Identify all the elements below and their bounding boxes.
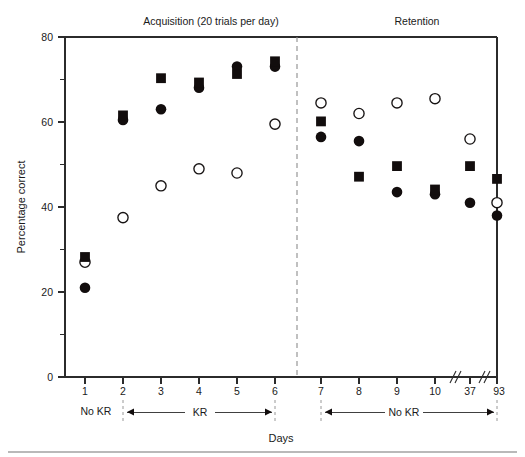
series-filled-square [80, 56, 502, 262]
data-point [465, 161, 475, 171]
phase-label-retention: Retention [395, 15, 440, 27]
data-point [465, 134, 475, 144]
data-point [80, 283, 91, 294]
data-point [118, 111, 128, 121]
data-point [194, 164, 204, 174]
x-tick-label-8: 8 [356, 385, 362, 397]
data-point [156, 104, 167, 115]
data-point [392, 98, 402, 108]
x-axis-title: Days [268, 432, 294, 444]
x-tick-label-1: 1 [82, 385, 88, 397]
data-point [316, 117, 326, 127]
data-markers [80, 56, 503, 293]
data-point [232, 168, 242, 178]
x-tick-label-10: 10 [429, 385, 441, 397]
x-tick-label-93: 93 [493, 385, 505, 397]
condition-annotations: No KR KR No KR [81, 400, 497, 423]
y-tick-label-0: 0 [47, 371, 53, 383]
data-point [492, 174, 502, 184]
series-open-circle [80, 94, 502, 268]
data-point [316, 132, 327, 143]
data-point [430, 185, 440, 195]
scatter-chart-figure: Acquisition (20 trials per day) Retentio… [0, 0, 525, 457]
x-tick-label-9: 9 [394, 385, 400, 397]
data-point [156, 181, 166, 191]
data-point [270, 119, 280, 129]
data-point [118, 213, 128, 223]
x-tick-label-3: 3 [158, 385, 164, 397]
data-point [492, 210, 503, 221]
data-point [430, 94, 440, 104]
data-point [316, 98, 326, 108]
annotation-label-no-kr-right: No KR [389, 406, 420, 418]
y-tick-label-40: 40 [41, 201, 53, 213]
data-point [270, 56, 280, 66]
x-tick-label-6: 6 [272, 385, 278, 397]
data-point [354, 136, 365, 147]
data-point [232, 69, 242, 79]
chart-canvas: Acquisition (20 trials per day) Retentio… [0, 0, 525, 457]
annotation-label-no-kr-left: No KR [81, 405, 112, 417]
x-tick-label-4: 4 [196, 385, 202, 397]
y-tick-label-80: 80 [41, 31, 53, 43]
data-point [392, 161, 402, 171]
x-axis: 1 2 3 4 5 6 7 8 9 10 37 93 Days [82, 371, 505, 444]
data-point [194, 78, 204, 88]
data-point [492, 198, 502, 208]
data-point [156, 73, 166, 83]
y-tick-label-60: 60 [41, 116, 53, 128]
annotation-span-no-kr-right: No KR [325, 406, 494, 418]
y-axis: 80 60 40 20 0 Percentage correct [15, 31, 65, 383]
data-point [465, 197, 476, 208]
phase-label-acquisition: Acquisition (20 trials per day) [143, 15, 278, 27]
plot-frame [65, 37, 497, 377]
data-point [354, 108, 364, 118]
x-tick-label-7: 7 [318, 385, 324, 397]
annotation-span-kr: KR [127, 406, 272, 418]
data-point [392, 187, 403, 198]
y-axis-title: Percentage correct [15, 161, 27, 254]
y-tick-label-20: 20 [41, 286, 53, 298]
x-tick-label-2: 2 [120, 385, 126, 397]
x-tick-label-5: 5 [234, 385, 240, 397]
data-point [80, 252, 90, 262]
annotation-label-kr: KR [193, 406, 208, 418]
x-tick-label-37: 37 [464, 385, 476, 397]
data-point [354, 172, 364, 182]
